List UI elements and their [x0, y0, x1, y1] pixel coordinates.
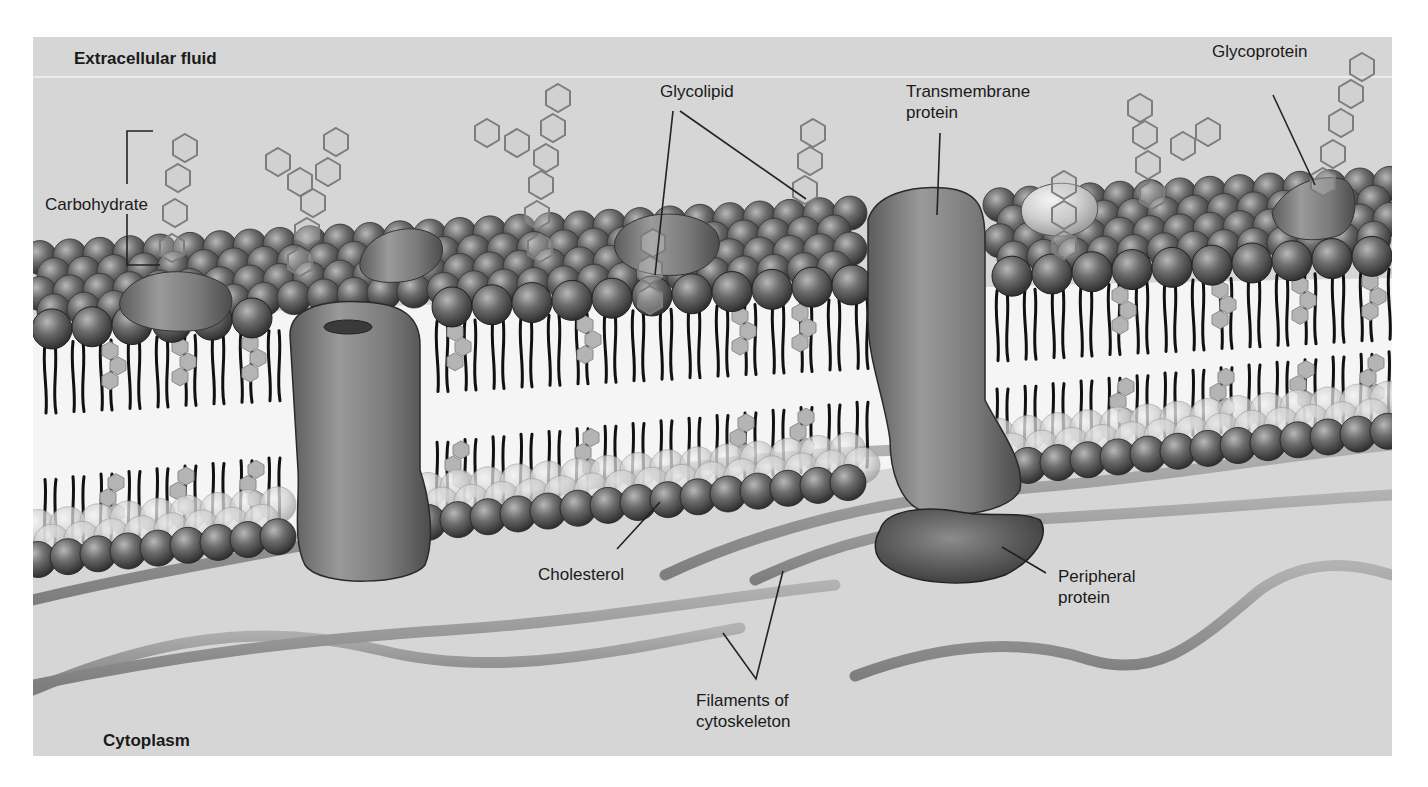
- peripheral-protein: [875, 509, 1043, 583]
- glycoprotein-leader: [1273, 95, 1315, 185]
- membrane-illustration: [33, 37, 1392, 756]
- glycolipid-leader-b: [680, 111, 806, 199]
- channel-pore: [324, 320, 372, 334]
- label-peripheral-protein: Peripheral protein: [1058, 566, 1136, 608]
- label-filaments-of-cytoskeleton: Filaments of cytoskeleton: [696, 690, 791, 732]
- membrane-diagram-panel: Extracellular fluid Cytoplasm Carbohydra…: [33, 37, 1392, 756]
- label-transmembrane-protein: Transmembrane protein: [906, 81, 1030, 123]
- label-glycolipid: Glycolipid: [660, 81, 734, 102]
- label-glycoprotein: Glycoprotein: [1212, 41, 1307, 62]
- label-carbohydrate: Carbohydrate: [45, 194, 148, 215]
- region-label-extracellular-fluid: Extracellular fluid: [74, 48, 217, 69]
- channel-protein: [290, 302, 430, 582]
- label-cholesterol: Cholesterol: [538, 564, 624, 585]
- region-label-cytoplasm: Cytoplasm: [103, 730, 190, 751]
- glycolipid-protein: [615, 214, 720, 275]
